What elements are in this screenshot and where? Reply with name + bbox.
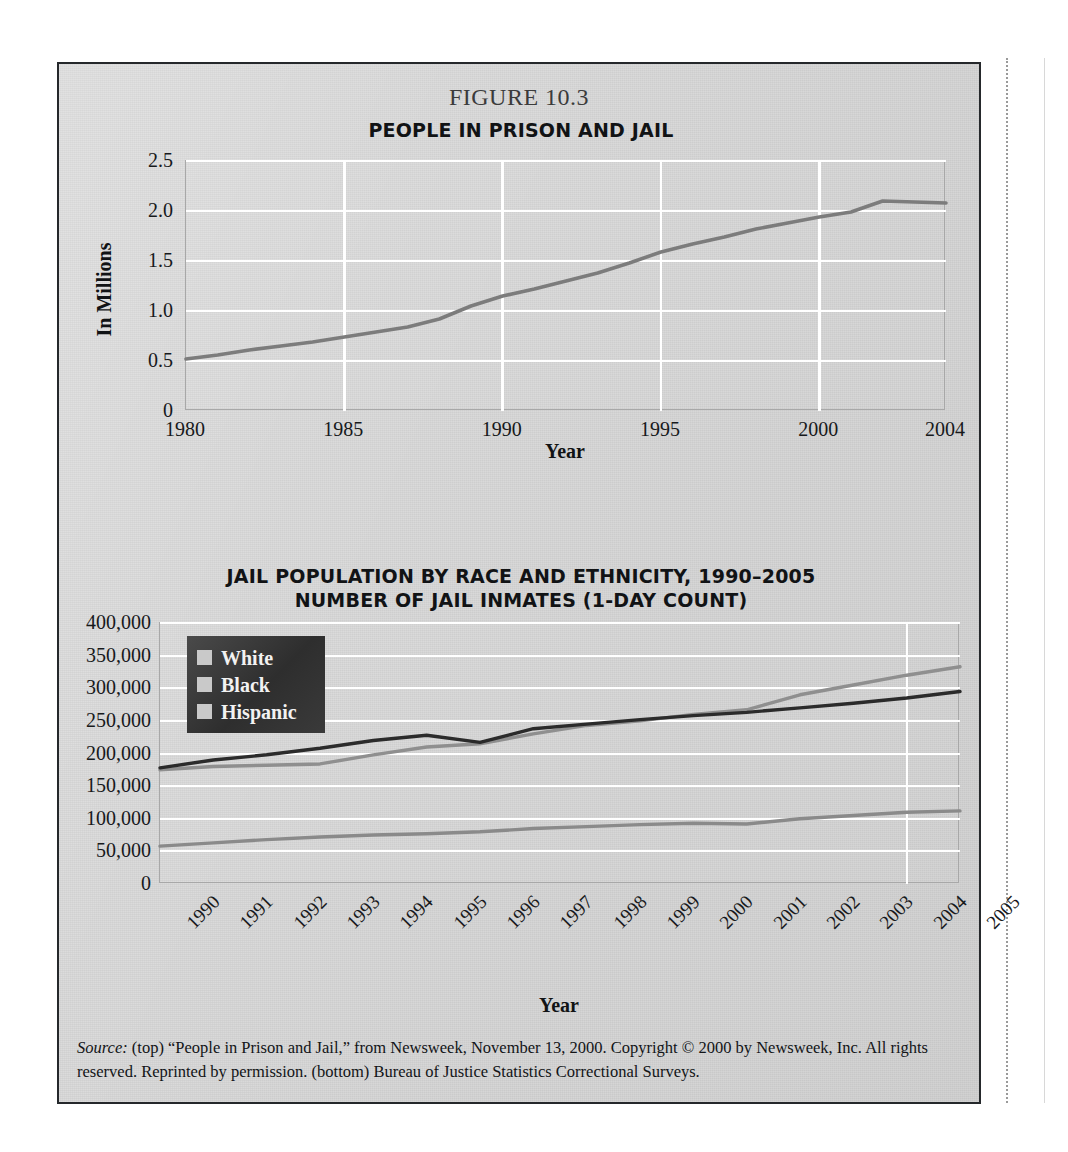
page-margin-rule <box>1044 58 1045 1103</box>
top-chart-x-tick: 2004 <box>925 418 965 441</box>
top-chart-y-axis-title: In Millions <box>93 230 116 350</box>
bottom-chart-y-tick: 0 <box>59 872 151 895</box>
top-chart-x-tick: 1995 <box>640 418 680 441</box>
chart-people-in-prison-and-jail: PEOPLE IN PRISON AND JAIL 2.52.01.51.00.… <box>59 118 983 458</box>
bottom-chart-y-tick: 150,000 <box>59 774 151 797</box>
top-chart-plot-area <box>185 160 945 410</box>
figure-number-label: FIGURE 10.3 <box>59 84 979 111</box>
bottom-chart-x-tick: 1992 <box>289 891 331 933</box>
figure-panel: FIGURE 10.3 PEOPLE IN PRISON AND JAIL 2.… <box>57 62 981 1104</box>
figure-caption: Source: (top) “People in Prison and Jail… <box>77 1036 959 1084</box>
bottom-chart-y-tick: 350,000 <box>59 643 151 666</box>
bottom-chart-x-tick: 1990 <box>182 891 224 933</box>
top-chart-x-tick: 1980 <box>165 418 205 441</box>
bottom-chart-x-tick: 1997 <box>555 891 597 933</box>
legend-item-black[interactable]: Black <box>197 671 311 698</box>
bottom-chart-x-tick: 1991 <box>235 891 277 933</box>
caption-source-label: Source: <box>77 1038 128 1057</box>
top-chart-y-tick: 0 <box>59 399 173 422</box>
top-chart-y-tick: 2.0 <box>59 199 173 222</box>
page-canvas: FIGURE 10.3 PEOPLE IN PRISON AND JAIL 2.… <box>0 0 1068 1152</box>
legend-label-hispanic: Hispanic <box>221 702 297 722</box>
bottom-chart-y-tick: 250,000 <box>59 708 151 731</box>
bottom-chart-title-line2: NUMBER OF JAIL INMATES (1-DAY COUNT) <box>59 588 983 612</box>
top-chart-y-tick: 2.5 <box>59 149 173 172</box>
top-chart-title: PEOPLE IN PRISON AND JAIL <box>59 118 983 142</box>
bottom-chart-title-line1: JAIL POPULATION BY RACE AND ETHNICITY, 1… <box>59 564 983 588</box>
bottom-chart-x-tick: 2001 <box>769 891 811 933</box>
caption-body: (top) “People in Prison and Jail,” from … <box>77 1038 928 1081</box>
bottom-chart-x-tick: 1996 <box>502 891 544 933</box>
legend-swatch-black-icon <box>197 677 212 692</box>
top-chart-y-tick: 1.0 <box>59 299 173 322</box>
legend-label-black: Black <box>221 675 270 695</box>
legend-swatch-white-icon <box>197 650 212 665</box>
bottom-chart-x-tick: 2003 <box>875 891 917 933</box>
bottom-chart-x-tick: 1999 <box>662 891 704 933</box>
page-margin-dotted-rule <box>1006 58 1008 1103</box>
top-chart-x-tick: 1990 <box>482 418 522 441</box>
bottom-chart-y-tick: 100,000 <box>59 806 151 829</box>
top-chart-x-axis-title: Year <box>185 440 945 463</box>
bottom-chart-x-tick: 1993 <box>342 891 384 933</box>
legend-label-white: White <box>221 648 273 668</box>
bottom-chart-x-tick: 1995 <box>449 891 491 933</box>
bottom-chart-x-tick: 1994 <box>395 891 437 933</box>
bottom-chart-x-tick: 2002 <box>822 891 864 933</box>
top-chart-y-tick: 0.5 <box>59 349 173 372</box>
top-chart-x-tick: 2000 <box>798 418 838 441</box>
bottom-chart-y-tick: 50,000 <box>59 839 151 862</box>
top-chart-x-tick: 1985 <box>323 418 363 441</box>
bottom-chart-y-tick: 400,000 <box>59 611 151 634</box>
bottom-chart-x-tick: 2000 <box>715 891 757 933</box>
top-chart-svg <box>186 161 946 411</box>
bottom-chart-y-tick: 200,000 <box>59 741 151 764</box>
bottom-chart-x-tick: 2005 <box>982 891 1024 933</box>
legend-item-hispanic[interactable]: Hispanic <box>197 698 311 725</box>
bottom-chart-x-tick: 1998 <box>609 891 651 933</box>
legend-item-white[interactable]: White <box>197 644 311 671</box>
bottom-chart-legend: White Black Hispanic <box>187 636 325 733</box>
bottom-chart-x-tick: 2004 <box>929 891 971 933</box>
chart-jail-population-by-race: JAIL POPULATION BY RACE AND ETHNICITY, 1… <box>59 564 983 1034</box>
legend-swatch-hispanic-icon <box>197 704 212 719</box>
bottom-chart-x-axis-title: Year <box>159 994 959 1017</box>
top-chart-y-tick: 1.5 <box>59 249 173 272</box>
bottom-chart-y-tick: 300,000 <box>59 676 151 699</box>
